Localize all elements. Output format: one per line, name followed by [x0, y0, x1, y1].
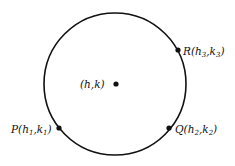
circle-points: R(h3,k3)P(h1,k1)Q(h2,k2) — [10, 45, 225, 137]
point-q-label: Q(h2,k2) — [175, 123, 217, 137]
point-r — [175, 47, 180, 52]
point-q — [166, 125, 171, 130]
point-p-label: P(h1,k1) — [10, 123, 52, 137]
circle-diagram: (h,k) R(h3,k3)P(h1,k1)Q(h2,k2) — [0, 0, 235, 166]
center-point — [113, 81, 118, 86]
point-p — [56, 125, 61, 130]
center-label: (h,k) — [80, 78, 105, 90]
point-r-label: R(h3,k3) — [182, 45, 225, 59]
